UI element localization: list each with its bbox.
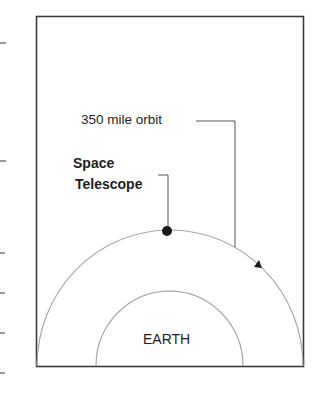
earth-label: EARTH: [143, 331, 190, 347]
telescope-leader-line: [158, 175, 168, 228]
space-telescope-marker-icon: [162, 226, 172, 236]
earth-arc: [96, 291, 243, 366]
telescope-label: Space Telescope: [73, 153, 142, 195]
orbit-label: 350 mile orbit: [81, 112, 162, 127]
margin-ticks: [0, 43, 6, 373]
orbit-leader-line: [196, 121, 235, 247]
telescope-label-line2: Telescope: [75, 174, 142, 195]
telescope-label-line1: Space: [73, 153, 142, 174]
